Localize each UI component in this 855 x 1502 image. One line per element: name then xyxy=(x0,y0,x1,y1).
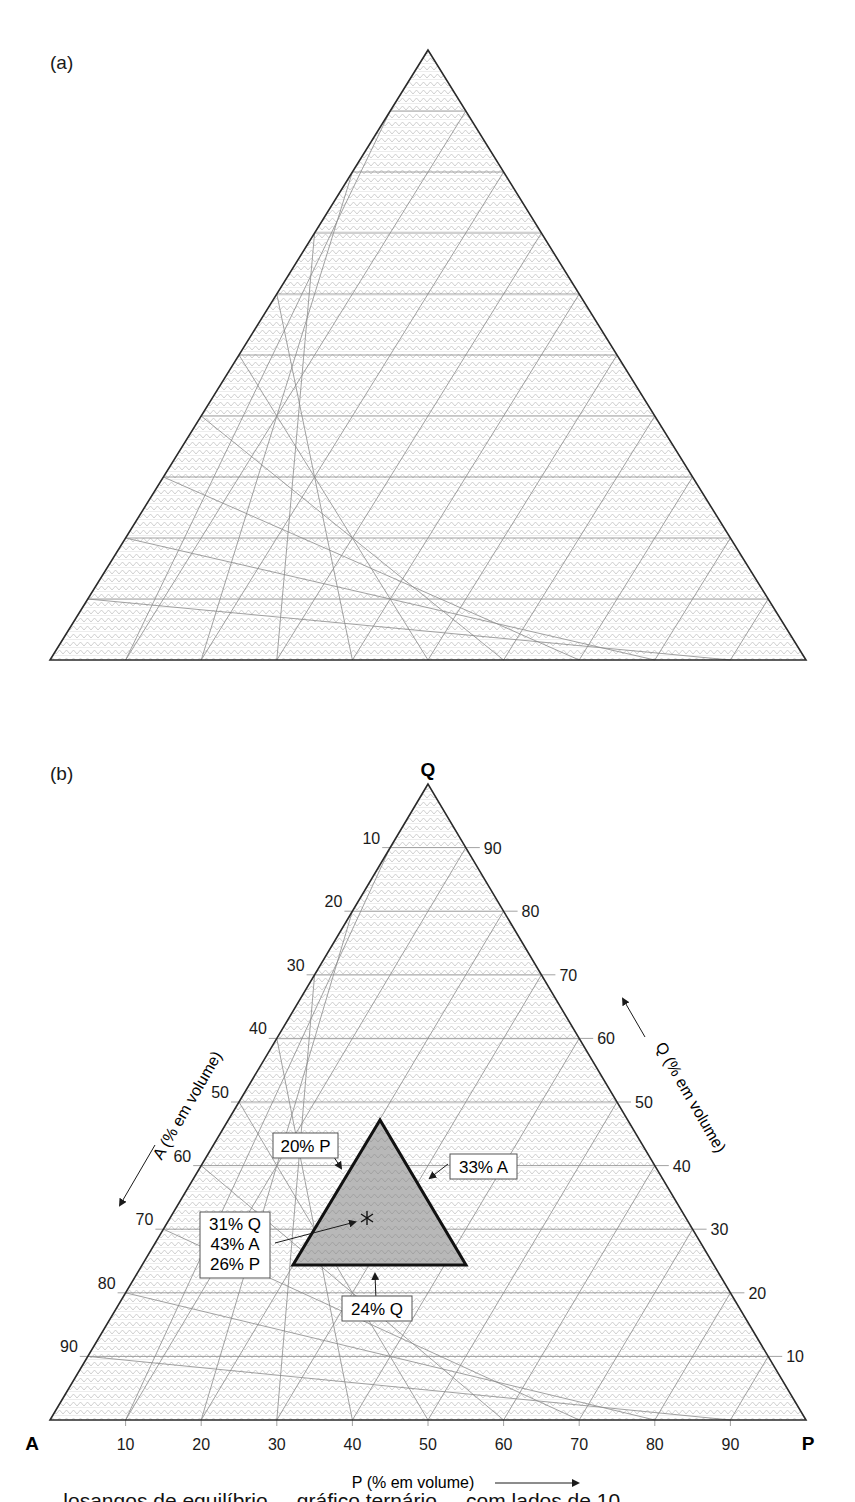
vertex-label-q: Q xyxy=(421,759,436,780)
tick-label: 90 xyxy=(484,840,502,857)
tick-label: 20 xyxy=(748,1285,766,1302)
tick-label: 10 xyxy=(117,1436,135,1453)
callout-20p-text: 20% P xyxy=(280,1137,330,1156)
point-q-text: 31% Q xyxy=(209,1215,261,1234)
callout-24q-text: 24% Q xyxy=(351,1300,403,1319)
tick-label: 80 xyxy=(522,903,540,920)
tick-label: 60 xyxy=(597,1030,615,1047)
figure-canvas: Q A P 102030405060708090 908070605040302… xyxy=(0,0,855,1502)
tick-label: 30 xyxy=(287,957,305,974)
callout-20p: 20% P xyxy=(273,1133,338,1158)
callout-point-composition: 31% Q 43% A 26% P xyxy=(200,1212,270,1278)
tick-label: 20 xyxy=(325,893,343,910)
callout-24q: 24% Q xyxy=(342,1296,412,1321)
callout-33a-text: 33% A xyxy=(459,1158,509,1177)
tick-label: 60 xyxy=(495,1436,513,1453)
tick-label: 90 xyxy=(722,1436,740,1453)
tick-label: 30 xyxy=(268,1436,286,1453)
tick-label: 50 xyxy=(635,1094,653,1111)
tick-label: 40 xyxy=(344,1436,362,1453)
tick-label: 50 xyxy=(211,1084,229,1101)
tick-label: 50 xyxy=(419,1436,437,1453)
point-p-text: 26% P xyxy=(210,1255,260,1274)
ternary-graph-a xyxy=(50,50,806,660)
tick-label: 70 xyxy=(570,1436,588,1453)
callout-33a: 33% A xyxy=(450,1154,517,1179)
tick-label: 80 xyxy=(646,1436,664,1453)
ternary-graph-b: Q A P 102030405060708090 908070605040302… xyxy=(25,759,815,1491)
tick-label: 60 xyxy=(173,1148,191,1165)
tick-label: 30 xyxy=(711,1221,729,1238)
tick-label: 70 xyxy=(136,1211,154,1228)
vertex-label-p: P xyxy=(802,1433,815,1454)
tick-label: 70 xyxy=(559,967,577,984)
tick-label: 10 xyxy=(786,1348,804,1365)
tick-label: 10 xyxy=(362,830,380,847)
point-a-text: 43% A xyxy=(210,1235,260,1254)
tick-label: 20 xyxy=(192,1436,210,1453)
arrow-axis-q xyxy=(623,999,645,1037)
bottom-tick-labels: 102030405060708090 xyxy=(117,1436,740,1453)
axis-title-q: Q (% em volume) xyxy=(652,1039,729,1155)
vertex-label-a: A xyxy=(25,1433,39,1454)
tick-label: 80 xyxy=(98,1275,116,1292)
tick-label: 90 xyxy=(60,1338,78,1355)
tick-label: 40 xyxy=(249,1020,267,1037)
figure-caption-partial: ... losangos de equilíbrio ... gráfico t… xyxy=(40,1486,840,1502)
tick-label: 40 xyxy=(673,1158,691,1175)
